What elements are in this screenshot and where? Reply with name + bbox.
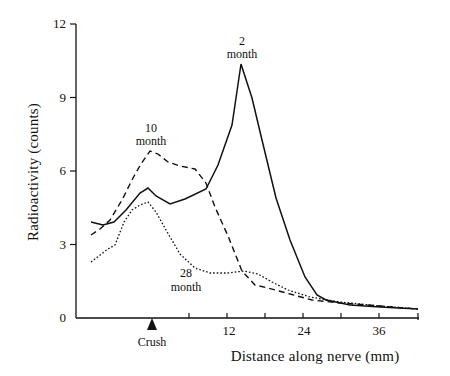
annotation-2-month: 2 month <box>227 34 258 61</box>
y-tick-6: 6 <box>60 163 67 178</box>
annotation-10-month: 10 month <box>136 121 167 148</box>
x-tick-24: 24 <box>298 323 312 338</box>
y-axis: 0 3 6 9 12 Radioactivity (counts) <box>25 16 76 325</box>
annotation-28-month: 28 month <box>171 266 202 294</box>
series-28-month <box>91 202 418 309</box>
y-tick-0: 0 <box>60 310 67 325</box>
svg-text:10: 10 <box>145 121 157 135</box>
svg-text:month: month <box>227 47 258 61</box>
x-axis: 12 24 36 Distance along nerve (mm) <box>76 313 419 365</box>
y-tick-3: 3 <box>60 237 67 252</box>
y-tick-9: 9 <box>60 90 67 105</box>
svg-text:month: month <box>136 134 167 148</box>
y-tick-12: 12 <box>53 16 66 31</box>
svg-text:28: 28 <box>180 266 192 280</box>
x-tick-36: 36 <box>373 323 387 338</box>
series-2-month <box>91 64 418 309</box>
y-axis-title: Radioactivity (counts) <box>25 103 42 241</box>
svg-text:month: month <box>171 280 202 294</box>
triangle-up-icon <box>147 318 157 330</box>
crush-label: Crush <box>138 335 167 349</box>
radioactivity-chart: 0 3 6 9 12 Radioactivity (counts) 12 24 … <box>0 0 450 376</box>
series-10-month <box>91 151 418 309</box>
svg-text:2: 2 <box>239 34 245 48</box>
x-axis-title: Distance along nerve (mm) <box>231 348 400 365</box>
crush-marker: Crush <box>138 318 167 349</box>
x-tick-12: 12 <box>223 323 236 338</box>
